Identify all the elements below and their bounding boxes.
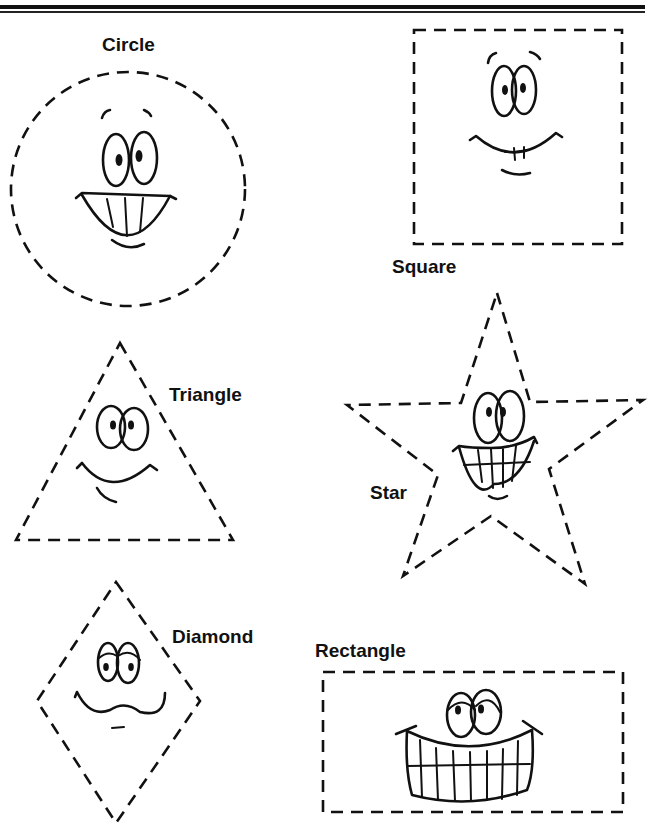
diamond-face-icon <box>75 643 165 728</box>
square-shape <box>414 30 622 244</box>
rectangle-label: Rectangle <box>315 640 406 662</box>
rectangle-face-icon <box>396 690 542 801</box>
triangle-label: Triangle <box>169 384 242 406</box>
diamond-label: Diamond <box>172 626 253 648</box>
circle-label: Circle <box>102 34 155 56</box>
triangle-shape <box>16 343 233 540</box>
rectangle-shape <box>323 672 623 812</box>
star-shape <box>347 293 643 584</box>
diamond-shape <box>37 582 200 823</box>
circle-face-icon <box>76 110 176 247</box>
star-face-icon <box>453 391 537 499</box>
star-label: Star <box>370 482 407 504</box>
shapes-artwork <box>0 0 649 828</box>
square-face-icon <box>470 52 562 174</box>
circle-shape <box>11 72 245 306</box>
triangle-face-icon <box>77 406 157 502</box>
square-label: Square <box>392 256 456 278</box>
